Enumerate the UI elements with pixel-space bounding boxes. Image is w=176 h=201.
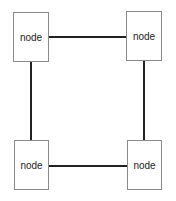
edge-top-left-to-bottom-left (30, 62, 32, 140)
diagram-canvas: node node node node (0, 0, 176, 201)
node-top-left[interactable]: node (13, 12, 49, 62)
node-label: node (20, 160, 42, 171)
node-label: node (20, 32, 42, 43)
edge-top-left-to-top-right (49, 36, 127, 38)
node-bottom-left[interactable]: node (14, 140, 49, 190)
node-label: node (133, 160, 155, 171)
edge-bottom-left-to-bottom-right (49, 165, 127, 167)
node-top-right[interactable]: node (126, 11, 162, 61)
node-bottom-right[interactable]: node (127, 140, 162, 190)
edge-top-right-to-bottom-right (143, 61, 145, 140)
node-label: node (133, 31, 155, 42)
